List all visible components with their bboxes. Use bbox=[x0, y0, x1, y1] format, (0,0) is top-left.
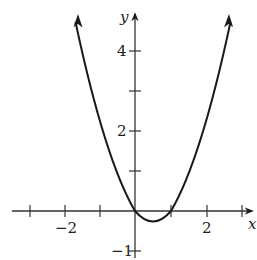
curve-stroke bbox=[76, 22, 231, 222]
left-curve-arrow-icon bbox=[74, 14, 83, 28]
right-curve-arrow-icon bbox=[224, 14, 233, 28]
y-axis-label: y bbox=[119, 8, 129, 26]
y-tick-label-4: 4 bbox=[117, 42, 127, 60]
y-tick-label-neg1: −1 bbox=[111, 242, 133, 260]
y-tick-label-2: 2 bbox=[117, 122, 127, 140]
x-tick-label-neg2: −2 bbox=[55, 219, 77, 237]
y-axis bbox=[129, 14, 141, 258]
parabola-chart: y x −2 2 4 2 −1 bbox=[0, 0, 257, 260]
x-axis-label: x bbox=[248, 215, 257, 233]
x-tick-label-2: 2 bbox=[202, 219, 212, 237]
parabola-curve bbox=[72, 19, 234, 221]
